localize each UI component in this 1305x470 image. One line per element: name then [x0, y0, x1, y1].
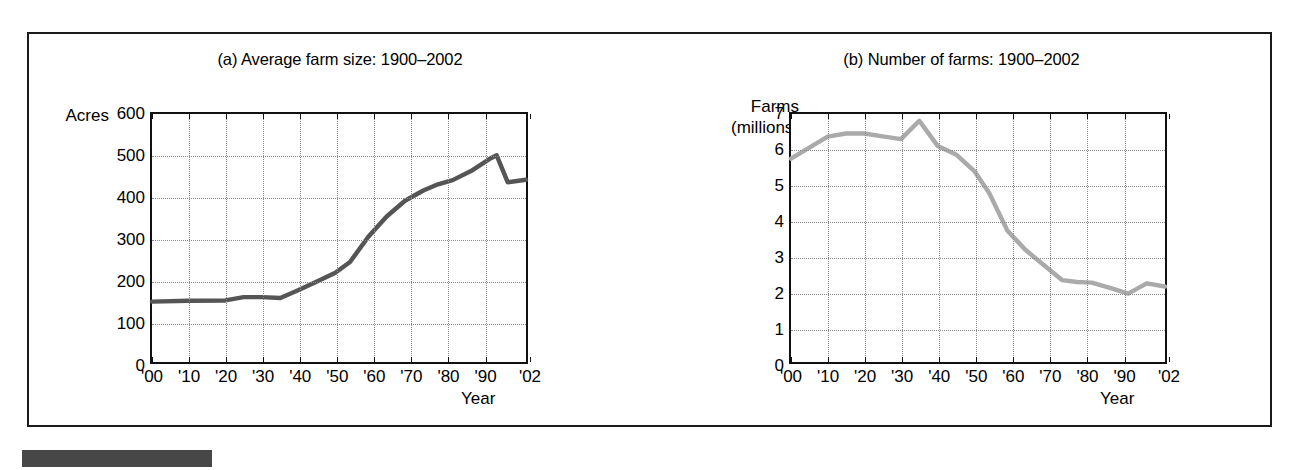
axis-tick-mark	[1169, 114, 1170, 119]
axis-tick-mark	[939, 357, 940, 362]
chart-b-title: (b) Number of farms: 1900–2002	[651, 50, 1272, 69]
y-axis-tick-label: 0	[136, 356, 145, 376]
axis-tick-mark	[448, 357, 449, 362]
axis-tick-mark	[530, 357, 531, 362]
figure-root: (a) Average farm size: 1900–2002 Acres '…	[0, 0, 1305, 470]
axis-tick-mark	[1169, 357, 1170, 362]
chart-panel-b: (b) Number of farms: 1900–2002 Farms (mi…	[651, 34, 1272, 429]
y-axis-tick-label: 200	[117, 272, 145, 292]
axis-tick-mark	[263, 357, 264, 362]
x-axis-tick-label: '70	[1039, 367, 1061, 387]
y-axis-tick-label: 3	[775, 248, 784, 268]
axis-tick-mark	[448, 114, 449, 119]
axis-tick-mark	[374, 357, 375, 362]
y-axis-tick-label: 1	[775, 320, 784, 340]
axis-tick-mark	[976, 357, 977, 362]
x-axis-tick-label: '20	[854, 367, 876, 387]
axis-tick-mark	[1087, 114, 1088, 119]
y-axis-tick-label: 0	[775, 356, 784, 376]
x-axis-tick-label: '20	[215, 367, 237, 387]
axis-tick-mark	[865, 357, 866, 362]
x-axis-tick-label: '80	[1076, 367, 1098, 387]
axis-tick-mark	[902, 357, 903, 362]
axis-tick-mark	[300, 114, 301, 119]
axis-tick-mark	[226, 114, 227, 119]
axis-tick-mark	[1125, 114, 1126, 119]
axis-tick-mark	[226, 357, 227, 362]
axis-tick-mark	[374, 114, 375, 119]
x-axis-tick-label: '70	[400, 367, 422, 387]
axis-tick-mark	[1013, 114, 1014, 119]
axis-tick-mark	[300, 357, 301, 362]
y-axis-tick-label: 7	[775, 104, 784, 124]
x-axis-tick-label: '90	[1113, 367, 1135, 387]
axis-tick-mark	[337, 114, 338, 119]
axis-tick-mark	[189, 114, 190, 119]
x-axis-tick-label: '40	[289, 367, 311, 387]
chart-b-series-line	[791, 114, 1165, 362]
y-axis-tick-label: 2	[775, 284, 784, 304]
y-axis-tick-label: 5	[775, 176, 784, 196]
axis-tick-mark	[189, 357, 190, 362]
x-axis-tick-label: '30	[252, 367, 274, 387]
axis-tick-mark	[791, 114, 792, 119]
y-axis-tick-label: 600	[117, 104, 145, 124]
x-axis-tick-label: '60	[363, 367, 385, 387]
x-axis-tick-label: '02	[1158, 367, 1180, 387]
x-axis-tick-label: '02	[519, 367, 541, 387]
axis-tick-mark	[1087, 357, 1088, 362]
y-axis-tick-label: 400	[117, 188, 145, 208]
x-axis-tick-label: '40	[928, 367, 950, 387]
chart-a-title: (a) Average farm size: 1900–2002	[29, 50, 651, 69]
axis-tick-mark	[1050, 357, 1051, 362]
x-axis-tick-label: '90	[474, 367, 496, 387]
axis-tick-mark	[828, 357, 829, 362]
axis-tick-mark	[263, 114, 264, 119]
axis-tick-mark	[1050, 114, 1051, 119]
axis-tick-mark	[530, 114, 531, 119]
x-axis-tick-label: '80	[437, 367, 459, 387]
axis-tick-mark	[939, 114, 940, 119]
source-bar	[22, 450, 212, 467]
axis-tick-mark	[865, 114, 866, 119]
axis-tick-mark	[1013, 357, 1014, 362]
axis-tick-mark	[411, 114, 412, 119]
axis-tick-mark	[791, 357, 792, 362]
axis-tick-mark	[902, 114, 903, 119]
y-axis-tick-label: 500	[117, 146, 145, 166]
x-axis-tick-label: '10	[817, 367, 839, 387]
x-axis-tick-label: '60	[1002, 367, 1024, 387]
chart-b-x-axis-label: Year	[1100, 389, 1134, 409]
series-b-polyline	[791, 121, 1165, 294]
axis-tick-mark	[1125, 357, 1126, 362]
series-a-polyline	[152, 155, 526, 301]
axis-tick-mark	[486, 114, 487, 119]
x-axis-tick-label: '50	[965, 367, 987, 387]
chart-a-series-line	[152, 114, 526, 362]
x-axis-tick-label: '10	[178, 367, 200, 387]
x-axis-tick-label: '30	[891, 367, 913, 387]
axis-tick-mark	[828, 114, 829, 119]
chart-a-x-axis-label: Year	[461, 389, 495, 409]
axis-tick-mark	[152, 357, 153, 362]
y-axis-tick-label: 6	[775, 140, 784, 160]
axis-tick-mark	[152, 114, 153, 119]
y-axis-tick-label: 4	[775, 212, 784, 232]
y-axis-tick-label: 300	[117, 230, 145, 250]
chart-a-y-axis-label-line-1: Acres	[37, 105, 109, 126]
axis-tick-mark	[411, 357, 412, 362]
chart-a-y-axis-label: Acres	[37, 105, 109, 126]
chart-b-plot-area: '00'10'20'30'40'50'60'70'80'90'020123456…	[789, 112, 1167, 364]
axis-tick-mark	[337, 357, 338, 362]
x-axis-tick-label: '50	[326, 367, 348, 387]
axis-tick-mark	[486, 357, 487, 362]
figure-frame: (a) Average farm size: 1900–2002 Acres '…	[27, 32, 1272, 427]
chart-panel-a: (a) Average farm size: 1900–2002 Acres '…	[29, 34, 651, 429]
chart-a-plot-area: '00'10'20'30'40'50'60'70'80'90'020100200…	[150, 112, 528, 364]
axis-tick-mark	[976, 114, 977, 119]
y-axis-tick-label: 100	[117, 314, 145, 334]
